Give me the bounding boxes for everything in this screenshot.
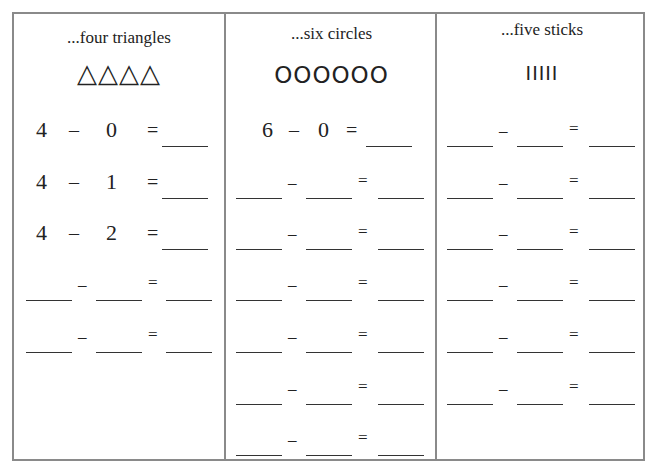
blank-equation-row: – = — [226, 375, 437, 405]
minuend-blank[interactable] — [236, 198, 282, 199]
equation-row: 4 – 0 = — [14, 117, 224, 147]
column-six-circles: ...six circles OOOOOO 6 – 0 = – = – = – — [224, 14, 437, 459]
answer-blank[interactable] — [589, 198, 635, 199]
subtrahend-blank[interactable] — [96, 300, 142, 301]
blank-equation-row: – = — [226, 426, 437, 456]
subtrahend-blank[interactable] — [306, 198, 352, 199]
subtrahend-blank[interactable] — [306, 455, 352, 456]
column-heading: ...six circles — [226, 24, 437, 44]
column-heading: ...four triangles — [14, 28, 224, 48]
blank-equation-row: – = — [437, 220, 647, 250]
minuend-blank[interactable] — [447, 146, 493, 147]
subtrahend-blank[interactable] — [306, 300, 352, 301]
answer-blank[interactable] — [589, 300, 635, 301]
equation-row: 4 – 1 = — [14, 169, 224, 199]
subtrahend-blank[interactable] — [517, 198, 563, 199]
blank-equation-row: – = — [437, 169, 647, 199]
circle-icon: OOOOOO — [226, 62, 437, 88]
answer-blank[interactable] — [589, 352, 635, 353]
blank-equation-row: – = — [437, 323, 647, 353]
blank-equation-row: – = — [437, 117, 647, 147]
answer-blank[interactable] — [589, 146, 635, 147]
stick-icon: IIIII — [437, 62, 647, 85]
answer-blank[interactable] — [589, 404, 635, 405]
minuend-blank[interactable] — [447, 300, 493, 301]
blank-equation-row: – = — [14, 271, 224, 301]
answer-blank[interactable] — [162, 198, 208, 199]
answer-blank[interactable] — [378, 300, 424, 301]
subtrahend-blank[interactable] — [517, 404, 563, 405]
answer-blank[interactable] — [378, 455, 424, 456]
minuend-blank[interactable] — [26, 300, 72, 301]
minuend-blank[interactable] — [236, 455, 282, 456]
minuend-blank[interactable] — [26, 352, 72, 353]
column-heading: ...five sticks — [437, 20, 647, 40]
blank-equation-row: – = — [437, 375, 647, 405]
answer-blank[interactable] — [366, 146, 412, 147]
answer-blank[interactable] — [378, 249, 424, 250]
column-five-sticks: ...five sticks IIIII – = – = – = – — [435, 14, 647, 459]
answer-blank[interactable] — [378, 352, 424, 353]
subtrahend-blank[interactable] — [306, 249, 352, 250]
answer-blank[interactable] — [378, 198, 424, 199]
subtrahend-blank[interactable] — [306, 404, 352, 405]
minuend-blank[interactable] — [447, 404, 493, 405]
blank-equation-row: – = — [437, 271, 647, 301]
minuend-blank[interactable] — [447, 198, 493, 199]
blank-equation-row: – = — [226, 169, 437, 199]
blank-equation-row: – = — [226, 220, 437, 250]
minuend-blank[interactable] — [236, 249, 282, 250]
answer-blank[interactable] — [378, 404, 424, 405]
subtrahend-blank[interactable] — [517, 352, 563, 353]
answer-blank[interactable] — [166, 352, 212, 353]
blank-equation-row: – = — [14, 323, 224, 353]
minuend-blank[interactable] — [236, 352, 282, 353]
subtrahend-blank[interactable] — [306, 352, 352, 353]
triangle-icon: △△△△ — [14, 58, 224, 88]
worksheet-table: ...four triangles △△△△ 4 – 0 = 4 – 1 = 4… — [12, 12, 645, 461]
blank-equation-row: – = — [226, 271, 437, 301]
subtrahend-blank[interactable] — [517, 249, 563, 250]
answer-blank[interactable] — [162, 146, 208, 147]
minuend-blank[interactable] — [236, 300, 282, 301]
subtrahend-blank[interactable] — [517, 300, 563, 301]
answer-blank[interactable] — [589, 249, 635, 250]
answer-blank[interactable] — [166, 300, 212, 301]
answer-blank[interactable] — [162, 249, 208, 250]
blank-equation-row: – = — [226, 323, 437, 353]
subtrahend-blank[interactable] — [517, 146, 563, 147]
column-four-triangles: ...four triangles △△△△ 4 – 0 = 4 – 1 = 4… — [14, 14, 224, 459]
minuend-blank[interactable] — [236, 404, 282, 405]
subtrahend-blank[interactable] — [96, 352, 142, 353]
minuend-blank[interactable] — [447, 249, 493, 250]
minuend-blank[interactable] — [447, 352, 493, 353]
equation-row: 4 – 2 = — [14, 220, 224, 250]
equation-row: 6 – 0 = — [226, 117, 437, 147]
